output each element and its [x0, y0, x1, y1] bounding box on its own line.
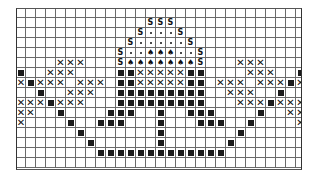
filled-square-icon [86, 138, 96, 148]
filled-square-icon [196, 118, 206, 128]
empty-cell [46, 48, 56, 58]
filled-square-icon [256, 108, 266, 118]
empty-cell [146, 118, 156, 128]
grid-row: ✕✕✕✕ [16, 108, 302, 118]
empty-cell [226, 148, 236, 158]
cross-icon: ✕ [286, 108, 296, 118]
filled-square-icon [196, 108, 206, 118]
empty-cell [136, 138, 146, 148]
empty-cell [206, 128, 216, 138]
filled-square-icon [116, 78, 126, 88]
empty-cell [266, 118, 276, 128]
empty-cell [296, 28, 302, 38]
empty-cell [276, 158, 286, 168]
filled-square-icon [156, 148, 166, 158]
empty-cell [76, 18, 86, 28]
empty-cell [126, 28, 136, 38]
dot-symbol-icon [166, 28, 176, 38]
empty-cell [46, 118, 56, 128]
empty-cell [236, 18, 246, 28]
empty-cell [266, 8, 276, 18]
empty-cell [286, 58, 296, 68]
empty-cell [166, 118, 176, 128]
empty-cell [136, 158, 146, 168]
cross-icon: ✕ [246, 68, 256, 78]
cross-icon: ✕ [236, 58, 246, 68]
empty-cell [186, 158, 196, 168]
empty-cell [36, 148, 46, 158]
empty-cell [286, 18, 296, 28]
empty-cell [216, 28, 226, 38]
empty-cell [26, 38, 36, 48]
cross-icon: ✕ [276, 98, 286, 108]
filled-square-icon [206, 108, 216, 118]
empty-cell [236, 118, 246, 128]
filled-square-icon [196, 148, 206, 158]
empty-cell [116, 38, 126, 48]
spade-icon: ♠ [156, 48, 166, 58]
empty-cell [36, 128, 46, 138]
empty-cell [66, 38, 76, 48]
empty-cell [266, 88, 276, 98]
cross-icon: ✕ [256, 98, 266, 108]
cross-icon: ✕ [36, 98, 46, 108]
empty-cell [226, 38, 236, 48]
empty-cell [176, 8, 186, 18]
empty-cell [56, 148, 66, 158]
s-symbol-icon: S [156, 18, 166, 28]
grid-row [16, 158, 302, 168]
empty-cell [176, 18, 186, 28]
cross-icon: ✕ [226, 88, 236, 98]
filled-square-icon [106, 148, 116, 158]
empty-cell [216, 128, 226, 138]
empty-cell [246, 138, 256, 148]
empty-cell [216, 158, 226, 168]
empty-cell [106, 158, 116, 168]
empty-cell [216, 58, 226, 68]
filled-square-icon [156, 108, 166, 118]
filled-square-icon [216, 118, 226, 128]
empty-cell [46, 128, 56, 138]
filled-square-icon [116, 148, 126, 158]
empty-cell [136, 108, 146, 118]
empty-cell [296, 18, 302, 28]
empty-cell [36, 18, 46, 28]
empty-cell [96, 18, 106, 28]
empty-cell [36, 8, 46, 18]
filled-square-icon [96, 148, 106, 158]
filled-square-icon [156, 128, 166, 138]
cross-icon: ✕ [96, 78, 106, 88]
empty-cell [66, 8, 76, 18]
filled-square-icon [136, 88, 146, 98]
empty-cell [226, 108, 236, 118]
empty-cell [256, 38, 266, 48]
spade-icon: ♠ [126, 58, 136, 68]
empty-cell [86, 8, 96, 18]
filled-square-icon [196, 78, 206, 88]
dot-symbol-icon [176, 48, 186, 58]
empty-cell [46, 138, 56, 148]
empty-cell [86, 158, 96, 168]
empty-cell [36, 118, 46, 128]
empty-cell [126, 18, 136, 28]
s-symbol-icon: S [166, 18, 176, 28]
empty-cell [26, 158, 36, 168]
empty-cell [236, 158, 246, 168]
filled-square-icon [206, 148, 216, 158]
empty-cell [106, 38, 116, 48]
empty-cell [16, 48, 26, 58]
empty-cell [36, 138, 46, 148]
filled-square-icon [186, 98, 196, 108]
empty-cell [56, 18, 66, 28]
empty-cell [96, 128, 106, 138]
empty-cell [206, 38, 216, 48]
filled-square-icon [116, 68, 126, 78]
empty-cell [36, 48, 46, 58]
empty-cell [266, 28, 276, 38]
empty-cell [46, 158, 56, 168]
cross-icon: ✕ [26, 108, 36, 118]
empty-cell [46, 88, 56, 98]
cross-icon: ✕ [296, 78, 302, 88]
empty-cell [286, 128, 296, 138]
empty-cell [236, 28, 246, 38]
